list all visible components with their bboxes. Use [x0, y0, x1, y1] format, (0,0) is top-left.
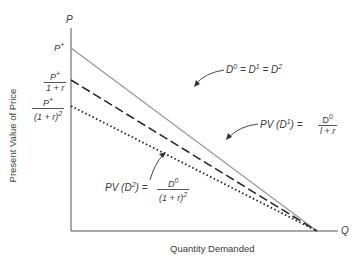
t2-den-sup: 2 [58, 110, 62, 117]
y-axis-title: Present Value of Price [7, 89, 18, 183]
tick-p-over-1r: P+ 1 + r [44, 69, 66, 93]
annotation-d0-d1-d2: D0 = D1 = D2 [226, 63, 282, 75]
tick-p-plus: P+ [54, 41, 64, 53]
arrowhead-pv1 [226, 133, 232, 140]
t2-den: (1 + r) [34, 112, 58, 122]
x-axis-title: Quantity Demanded [170, 243, 255, 254]
q-axis-label: Q [341, 225, 349, 236]
t2-num-sup: + [49, 96, 53, 103]
annotation-pv-d1: PV (D1) = [260, 118, 303, 130]
demand-diagram [0, 0, 358, 260]
annotation-pv-d2: PV (D2) = [105, 181, 148, 193]
tick-p-sup: + [60, 41, 64, 48]
p-axis-label: P [66, 14, 73, 25]
arrow-pv1 [229, 124, 258, 137]
pv-d2-fraction: D0 (1 + r)2 [157, 176, 189, 203]
t1-den: 1 + r [44, 82, 66, 93]
arrow-d0 [196, 70, 224, 84]
arrowhead-pv2 [159, 152, 166, 158]
demand-line-d0 [71, 48, 317, 231]
t1-num-sup: + [56, 70, 60, 77]
tick-p-over-1r-sq: P+ (1 + r)2 [32, 95, 64, 122]
pv-d1-fraction: D0 l + r [318, 112, 337, 136]
pv-d1-line [71, 80, 317, 231]
